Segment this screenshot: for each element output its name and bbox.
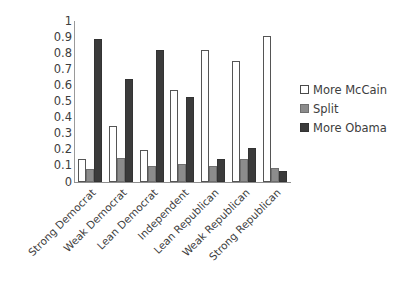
legend-item[interactable]: More Obama (300, 118, 418, 137)
bar-group (198, 21, 229, 182)
bar-more-obama (125, 79, 133, 182)
y-tick-label: 0.2 (46, 144, 72, 155)
bar-split (148, 166, 156, 182)
bar-more-mccain (109, 126, 117, 182)
y-tick-label: 0.1 (46, 160, 72, 171)
bar-more-obama (279, 171, 287, 182)
bar-chart: 00.10.20.30.40.50.60.70.80.91 Strong Dem… (0, 0, 420, 292)
bar-more-obama (186, 97, 194, 182)
bar-more-mccain (170, 90, 178, 182)
y-tick-label: 1 (46, 16, 72, 27)
bar-group (75, 21, 106, 182)
y-tick-label: 0.5 (46, 96, 72, 107)
legend-swatch-more-obama (300, 123, 309, 132)
bar-split (271, 168, 279, 182)
bar-split (240, 159, 248, 182)
y-tick-label: 0.9 (46, 32, 72, 43)
y-tick-label: 0.7 (46, 64, 72, 75)
y-tick-label: 0.3 (46, 128, 72, 139)
bar-more-obama (156, 50, 164, 182)
legend-label: More Obama (313, 122, 387, 134)
legend-label: More McCain (313, 84, 387, 96)
bar-group (229, 21, 260, 182)
y-tick-label: 0.4 (46, 112, 72, 123)
bar-more-obama (217, 159, 225, 182)
legend-swatch-more-mccain (300, 85, 309, 94)
bar-more-mccain (201, 50, 209, 182)
y-tick-label: 0.8 (46, 48, 72, 59)
bar-split (178, 164, 186, 182)
bar-group (167, 21, 198, 182)
legend-item[interactable]: More McCain (300, 80, 418, 99)
bar-more-obama (94, 39, 102, 182)
bar-more-mccain (140, 150, 148, 182)
bar-split (86, 169, 94, 182)
legend-item[interactable]: Split (300, 99, 418, 118)
bar-more-obama (248, 148, 256, 182)
bar-split (209, 166, 217, 182)
bar-more-mccain (232, 61, 240, 182)
bar-group (136, 21, 167, 182)
y-tick-label: 0.6 (46, 80, 72, 91)
bar-group (106, 21, 137, 182)
bar-more-mccain (263, 36, 271, 183)
bar-more-mccain (78, 159, 86, 182)
legend-label: Split (313, 103, 339, 115)
plot-area (75, 21, 290, 182)
y-axis-tick-labels: 00.10.20.30.40.50.60.70.80.91 (46, 14, 72, 189)
bar-split (117, 158, 125, 182)
legend-swatch-split (300, 104, 309, 113)
x-axis-tick-labels: Strong DemocratWeak DemocratLean Democra… (0, 183, 300, 292)
bar-group (259, 21, 290, 182)
chart-legend: More McCainSplitMore Obama (300, 80, 418, 137)
